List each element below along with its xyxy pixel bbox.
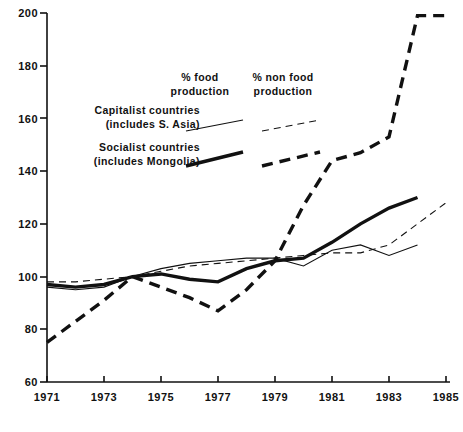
y-axis-ticks — [40, 13, 47, 382]
legend-swatch-capitalist-nonfood — [262, 120, 320, 131]
series-layer — [47, 16, 446, 343]
series-line-3 — [47, 16, 446, 343]
legend-swatch-socialist-food — [186, 152, 243, 166]
legend-swatches — [186, 120, 320, 166]
series-line-2 — [47, 198, 418, 288]
legend-swatch-capitalist-food — [186, 120, 243, 131]
x-axis-ticks — [47, 376, 446, 382]
axes — [47, 13, 450, 382]
legend-swatch-socialist-nonfood — [262, 152, 320, 166]
